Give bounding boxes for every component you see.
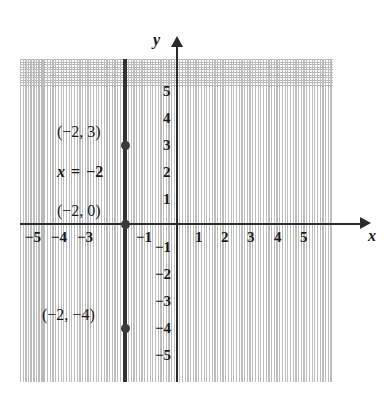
x-tick-label-5: 5 [300, 230, 308, 245]
plot-point-neg2-neg4 [121, 324, 130, 333]
x-axis-label: x [368, 228, 376, 244]
x-tick-label-4: 4 [274, 230, 282, 245]
point-annotation-neg2-0: (−2, 0) [57, 203, 101, 219]
y-tick-label-2: 2 [163, 165, 171, 180]
y-axis-label: y [153, 32, 160, 48]
x-tick-label-neg1: −1 [136, 230, 152, 245]
y-axis-arrow-icon [171, 36, 183, 47]
x-tick-label-neg5: −5 [25, 230, 41, 245]
y-tick-label-neg4: −4 [155, 321, 171, 336]
point-annotation-neg2-3: (−2, 3) [57, 124, 101, 140]
y-tick-label-neg5: −5 [155, 348, 171, 363]
equation-variable: x [57, 163, 65, 180]
y-tick-label-1: 1 [163, 192, 171, 207]
x-axis [20, 223, 365, 225]
y-axis [176, 45, 178, 382]
x-tick-label-3: 3 [247, 230, 255, 245]
plot-point-neg2-3 [121, 141, 130, 150]
x-tick-label-2: 2 [221, 230, 229, 245]
y-tick-label-neg1: −1 [155, 240, 171, 255]
y-tick-label-neg3: −3 [155, 294, 171, 309]
point-annotation-neg2-neg4: (−2, −4) [42, 307, 95, 323]
y-tick-label-5: 5 [163, 84, 171, 99]
plot-point-neg2-0 [121, 220, 130, 229]
coordinate-plane-figure: x y −5 −4 −3 −1 1 2 3 4 5 5 4 3 2 1 −1 −… [0, 0, 384, 401]
y-tick-label-neg2: −2 [155, 267, 171, 282]
equation-relation: = [71, 163, 80, 180]
equation-label: x=−2 [57, 164, 103, 180]
x-tick-label-neg4: −4 [51, 230, 67, 245]
x-tick-label-neg3: −3 [77, 230, 93, 245]
y-tick-label-4: 4 [163, 111, 171, 126]
y-tick-label-3: 3 [163, 138, 171, 153]
equation-value: −2 [86, 163, 103, 180]
x-tick-label-1: 1 [195, 230, 203, 245]
